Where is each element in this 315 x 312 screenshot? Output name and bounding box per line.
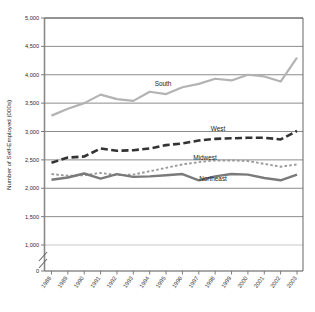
y-tick-label: 1,000 [25, 242, 39, 248]
y-tick-label: 2,500 [25, 157, 39, 163]
y-tick-label: 4,500 [25, 43, 39, 49]
chart-background [0, 0, 315, 312]
series-label-west: West [211, 125, 226, 132]
y-tick-label: 1,500 [25, 214, 39, 220]
series-label-northeast: Northeast [199, 175, 227, 182]
y-tick-label: 0 [36, 268, 39, 274]
y-tick-label: 3,500 [25, 100, 39, 106]
y-tick-label: 2,000 [25, 185, 39, 191]
series-label-midwest: Midwest [193, 154, 217, 161]
y-tick-label: 4,000 [25, 72, 39, 78]
y-axis-title: Number of Self-Employed (000s) [5, 100, 12, 190]
series-label-south: South [155, 80, 172, 87]
line-chart: 01,0001,5002,0002,5003,0003,5004,0004,50… [0, 0, 315, 312]
y-tick-label: 3,000 [25, 129, 39, 135]
chart-container: 01,0001,5002,0002,5003,0003,5004,0004,50… [0, 0, 315, 312]
y-tick-label: 5,000 [25, 15, 39, 21]
